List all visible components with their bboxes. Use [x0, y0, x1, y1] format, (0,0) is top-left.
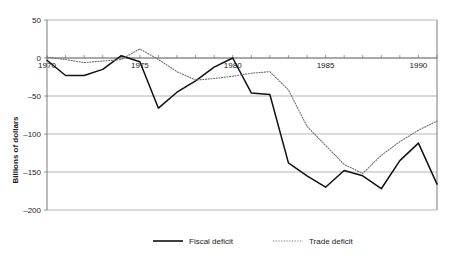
chart-legend: Fiscal deficitTrade deficit: [153, 237, 354, 246]
series-fiscal-deficit: [47, 56, 437, 189]
y-axis-tick-labels: 500–50–100–150–200: [23, 16, 47, 215]
x-axis-tick-labels: 19701975198019851990: [38, 61, 428, 70]
gridlines: [47, 20, 437, 210]
y-tick-label: 50: [32, 16, 41, 25]
y-tick-label: –150: [23, 168, 41, 177]
legend-label: Trade deficit: [309, 237, 354, 246]
series-line-fiscal-deficit: [47, 56, 437, 189]
axis-lines: [47, 20, 437, 210]
deficit-line-chart: 500–50–100–150–200 19701975198019851990 …: [0, 0, 458, 262]
y-tick-label: –50: [28, 92, 42, 101]
x-tick-label: 1985: [317, 61, 335, 70]
y-axis-title: Billions of dollars: [11, 116, 20, 184]
x-tick-label: 1990: [410, 61, 428, 70]
y-tick-label: –200: [23, 206, 41, 215]
y-tick-label: –100: [23, 130, 41, 139]
x-tick-label: 1980: [224, 61, 242, 70]
chart-container: 500–50–100–150–200 19701975198019851990 …: [0, 0, 458, 262]
legend-label: Fiscal deficit: [189, 237, 234, 246]
